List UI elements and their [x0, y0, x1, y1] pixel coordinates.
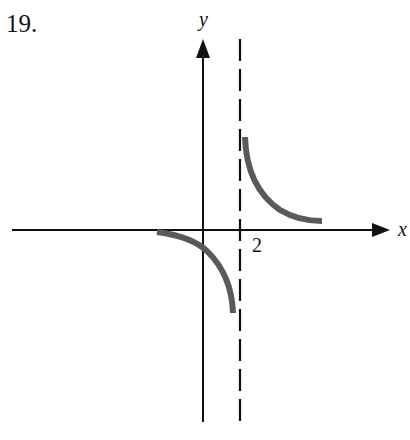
y-axis-label: y [197, 8, 208, 31]
y-axis-arrow-icon [196, 39, 210, 58]
graph: y x 2 [0, 0, 410, 440]
x-tick-label-2: 2 [252, 234, 262, 256]
x-axis [12, 223, 390, 237]
x-axis-label: x [397, 218, 407, 240]
curve-right-branch [245, 137, 322, 221]
x-axis-arrow-icon [372, 223, 390, 237]
curve-left-branch [157, 232, 233, 313]
